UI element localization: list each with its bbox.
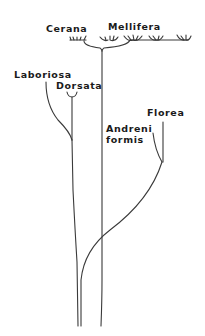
- label-dorsata: Dorsata: [56, 81, 102, 91]
- label-andreniformis-line1: Andreni: [106, 124, 152, 134]
- label-laboriosa: Laboriosa: [14, 70, 72, 80]
- label-mellifera: Mellifera: [108, 22, 161, 32]
- base-stem: [88, 262, 102, 280]
- giant-honeybee-branch: [46, 82, 78, 326]
- phylogenetic-tree: [0, 0, 205, 336]
- label-cerana: Cerana: [46, 24, 87, 34]
- cavity-nesting-branch: [70, 35, 191, 326]
- label-andreniformis-line2: formis: [106, 135, 144, 145]
- label-florea: Florea: [147, 108, 184, 118]
- dwarf-honeybee-branch: [81, 122, 163, 326]
